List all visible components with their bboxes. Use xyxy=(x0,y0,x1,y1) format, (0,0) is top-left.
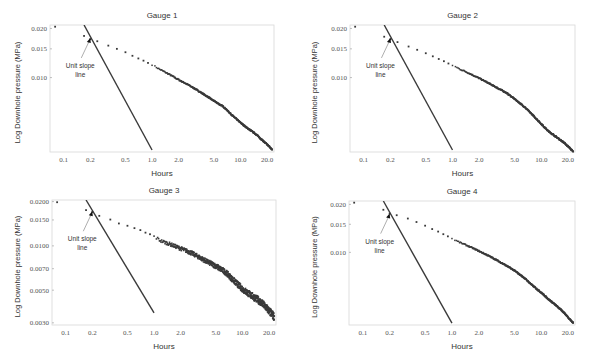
chart-title: Gauge 4 xyxy=(447,187,478,196)
y-tick-label: 0.015 xyxy=(31,45,47,53)
chart-svg: Gauge 40.10.20.51.02.05.010.020.00.0200.… xyxy=(297,180,593,359)
x-tick-label: 1.0 xyxy=(148,156,157,164)
arrow-head-icon xyxy=(87,38,91,43)
x-tick-label: 0.5 xyxy=(123,329,132,337)
x-tick-label: 10.0 xyxy=(236,329,249,337)
x-tick-label: 20.0 xyxy=(263,329,276,337)
y-tick-label: 0.0100 xyxy=(30,242,50,250)
x-tick-label: 0.1 xyxy=(59,156,68,164)
x-tick-label: 0.1 xyxy=(358,329,367,337)
x-tick-label: 20.0 xyxy=(261,156,274,164)
x-tick-label: 20.0 xyxy=(562,156,575,164)
annotation-arrow xyxy=(81,41,89,58)
x-tick-label: 0.1 xyxy=(359,156,368,164)
chart-gauge-2: Gauge 20.10.20.51.02.05.010.020.00.0200.… xyxy=(297,0,593,180)
chart-title: Gauge 2 xyxy=(447,11,478,20)
plot-frame xyxy=(350,25,575,152)
x-tick-label: 0.5 xyxy=(421,329,430,337)
data-points xyxy=(353,202,574,324)
x-tick-label: 5.0 xyxy=(510,156,519,164)
x-tick-label: 10.0 xyxy=(234,156,247,164)
unit-slope-line xyxy=(383,201,452,323)
annotation-label: Unit slope xyxy=(365,238,394,246)
arrow-head-icon xyxy=(386,214,390,219)
unit-slope-line xyxy=(84,25,152,150)
y-tick-label: 0.0200 xyxy=(30,198,50,206)
y-tick-label: 0.0070 xyxy=(30,265,50,273)
annotation-arrow xyxy=(381,41,389,58)
x-tick-label: 2.0 xyxy=(475,156,484,164)
x-tick-label: 1.0 xyxy=(150,329,159,337)
annotation-label: Unit slope xyxy=(366,62,395,70)
y-tick-label: 0.010 xyxy=(330,249,346,257)
annotation-label: Unit slope xyxy=(66,62,95,70)
chart-svg: Gauge 20.10.20.51.02.05.010.020.00.0200.… xyxy=(297,0,593,180)
chart-gauge-1: Gauge 10.10.20.51.02.05.010.020.00.0200.… xyxy=(0,0,296,180)
y-tick-label: 0.020 xyxy=(330,201,346,209)
y-tick-label: 0.020 xyxy=(331,25,347,33)
y-axis-label: Log Downhole pressure (MPa) xyxy=(13,215,22,317)
x-tick-label: 0.2 xyxy=(86,156,95,164)
y-tick-label: 0.015 xyxy=(330,221,346,229)
y-axis-label: Log Downhole pressure (MPa) xyxy=(310,41,319,143)
annotation-label: line xyxy=(77,244,88,251)
y-tick-label: 0.010 xyxy=(331,74,347,82)
x-tick-label: 0.2 xyxy=(88,329,97,337)
x-tick-label: 0.5 xyxy=(421,156,430,164)
data-points xyxy=(354,26,574,153)
unit-slope-line xyxy=(86,200,154,313)
unit-slope-line xyxy=(384,25,452,150)
x-tick-label: 10.0 xyxy=(535,156,548,164)
annotation-label: line xyxy=(375,71,386,78)
arrow-head-icon xyxy=(387,38,391,43)
x-tick-label: 5.0 xyxy=(211,329,220,337)
chart-svg: Gauge 30.10.20.51.02.05.010.020.00.02000… xyxy=(0,180,296,359)
x-tick-label: 5.0 xyxy=(510,329,519,337)
data-points xyxy=(54,26,273,151)
x-tick-label: 0.2 xyxy=(386,156,395,164)
chart-title: Gauge 3 xyxy=(149,186,180,195)
chart-gauge-4: Gauge 40.10.20.51.02.05.010.020.00.0200.… xyxy=(297,180,593,359)
chart-gauge-3: Gauge 30.10.20.51.02.05.010.020.00.02000… xyxy=(0,180,296,359)
x-tick-label: 20.0 xyxy=(562,329,575,337)
x-axis-label: Hours xyxy=(451,342,472,351)
arrow-head-icon xyxy=(89,211,93,216)
plot-frame xyxy=(52,200,276,325)
chart-svg: Gauge 10.10.20.51.02.05.010.020.00.0200.… xyxy=(0,0,296,180)
x-tick-label: 1.0 xyxy=(448,156,457,164)
y-tick-label: 0.015 xyxy=(331,45,347,53)
x-tick-label: 5.0 xyxy=(209,156,218,164)
x-axis-label: Hours xyxy=(151,169,172,178)
x-tick-label: 1.0 xyxy=(448,329,457,337)
x-tick-label: 10.0 xyxy=(535,329,548,337)
x-axis-label: Hours xyxy=(153,342,174,351)
y-tick-label: 0.0030 xyxy=(30,319,50,327)
y-tick-label: 0.010 xyxy=(31,74,47,82)
annotation-label: Unit slope xyxy=(68,235,97,243)
annotation-arrow xyxy=(381,217,389,234)
annotation-label: line xyxy=(375,247,386,254)
x-tick-label: 2.0 xyxy=(176,329,185,337)
y-axis-label: Log Downhole pressure (MPa) xyxy=(310,216,319,318)
x-tick-label: 0.5 xyxy=(121,156,130,164)
y-tick-label: 0.0050 xyxy=(30,287,50,295)
annotation-arrow xyxy=(83,214,91,231)
annotation-label: line xyxy=(75,71,86,78)
plot-frame xyxy=(349,201,575,325)
x-tick-label: 0.1 xyxy=(61,329,70,337)
x-tick-label: 2.0 xyxy=(174,156,183,164)
plot-frame xyxy=(50,25,274,152)
x-tick-label: 0.2 xyxy=(385,329,394,337)
y-tick-label: 0.0150 xyxy=(30,216,50,224)
y-axis-label: Log Downhole pressure (MPa) xyxy=(13,41,22,143)
chart-title: Gauge 1 xyxy=(147,11,178,20)
x-axis-label: Hours xyxy=(452,169,473,178)
y-tick-label: 0.020 xyxy=(31,25,47,33)
x-tick-label: 2.0 xyxy=(474,329,483,337)
